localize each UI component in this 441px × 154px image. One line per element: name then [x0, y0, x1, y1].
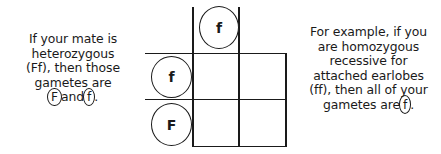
grid-horizontal-line-top [145, 53, 287, 54]
gamete-top-label: f [216, 20, 222, 36]
circled-allele-f-recessive: f [84, 90, 94, 105]
gamete-circle-left-f: f [151, 56, 192, 98]
grid-horizontal-line-middle [145, 99, 287, 100]
grid-vertical-line-left [192, 7, 194, 147]
gamete-circle-left-F: F [151, 103, 192, 146]
right-text-line-3: recessive for [296, 54, 441, 69]
circled-allele-F-dominant: F [48, 90, 61, 105]
right-text-prefix: gametes are [323, 97, 400, 112]
circled-allele-f-recessive-right: f [400, 98, 410, 113]
grid-horizontal-line-bottom [192, 146, 287, 147]
right-text-line-1: For example, if you [296, 25, 441, 40]
right-text-line-5: (ff), then all of your [296, 83, 441, 98]
right-explanation-text: For example, if you are homozygous reces… [296, 25, 441, 113]
right-text-line-2: are homozygous [296, 40, 441, 55]
gamete-left-row2-label: F [167, 117, 177, 133]
punnett-square-figure: If your mate is heterozygous (Ff), then … [0, 0, 441, 154]
gamete-left-row1-label: f [168, 69, 174, 85]
right-text-line-4: attached earlobes [296, 69, 441, 84]
right-text-allele-line: gametes aref. [296, 98, 441, 113]
gamete-circle-top-f: f [199, 6, 239, 49]
